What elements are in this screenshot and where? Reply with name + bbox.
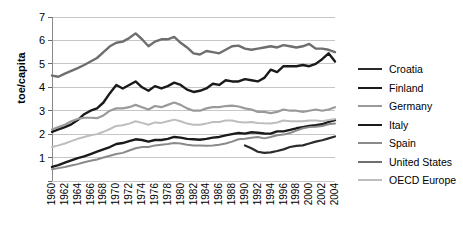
y-axis-tick-label: 3 [39,106,45,116]
x-axis-tick-label: 1968 [98,183,108,205]
x-axis-tick-label: 1962 [60,183,70,205]
x-axis-tick-label: 1984 [201,183,211,205]
x-axis-tick-label: 1966 [86,183,96,205]
legend-item-germany[interactable]: Germany [358,97,463,116]
y-axis-tick-label: 2 [39,129,45,139]
legend-item-label: Spain [389,137,416,149]
x-axis-tick-label: 2000 [304,183,314,205]
legend-item-united-states[interactable]: United States [358,153,463,172]
series-line [52,33,335,76]
x-axis-tick-label: 1960 [47,183,57,205]
x-axis-tick-label: 1978 [163,183,173,205]
y-axis-tick-label: 1 [39,153,45,163]
legend-line-icon [358,87,382,89]
legend-item-label: OECD Europe [389,174,456,186]
legend-item-finland[interactable]: Finland [358,79,463,98]
legend-item-italy[interactable]: Italy [358,116,463,135]
chart-legend: CroatiaFinlandGermanyItalySpainUnited St… [358,60,463,190]
x-axis-tick-label: 1988 [227,183,237,205]
legend-item-label: Italy [389,119,408,131]
legend-line-icon [358,105,382,107]
x-axis-ticks: 1960196219641966196819701972197419761978… [52,183,335,246]
legend-line-icon [358,161,382,163]
x-axis-tick-label: 1964 [73,183,83,205]
x-axis-tick-label: 1976 [150,183,160,205]
x-axis-tick-label: 2004 [330,183,340,205]
legend-item-oecd-europe[interactable]: OECD Europe [358,171,463,190]
x-axis-tick-label: 1970 [111,183,121,205]
x-axis-tick-label: 1972 [124,183,134,205]
legend-line-icon [358,142,382,144]
y-axis-tick-label: 6 [39,35,45,45]
x-axis-tick-label: 1974 [137,183,147,205]
x-axis-tick-label: 1980 [176,183,186,205]
y-axis-tick-label: 5 [39,59,45,69]
y-axis-tick-label: 7 [39,12,45,22]
line-chart: toe/capita 1234567 196019621964196619681… [0,0,463,246]
y-axis-tick-label: 4 [39,82,45,92]
x-axis-tick-label: 1986 [214,183,224,205]
x-axis-tick-label: 1998 [291,183,301,205]
legend-item-label: Croatia [389,63,423,75]
legend-item-label: Germany [389,100,432,112]
x-axis-tick-label: 1982 [189,183,199,205]
x-axis-tick-label: 1994 [266,183,276,205]
x-axis-tick-label: 1992 [253,183,263,205]
legend-item-spain[interactable]: Spain [358,134,463,153]
legend-line-icon [358,179,382,181]
x-axis-tick-label: 2002 [317,183,327,205]
series-line [52,53,335,131]
legend-line-icon [358,68,382,70]
legend-line-icon [358,124,382,126]
legend-item-label: Finland [389,82,423,94]
x-axis-tick-label: 1990 [240,183,250,205]
legend-item-label: United States [389,156,452,168]
x-axis-tick-label: 1996 [279,183,289,205]
legend-item-croatia[interactable]: Croatia [358,60,463,79]
series-line [245,136,335,152]
plot-svg [52,17,335,181]
y-axis-ticks: 1234567 [24,0,45,246]
plot-area [52,17,335,181]
